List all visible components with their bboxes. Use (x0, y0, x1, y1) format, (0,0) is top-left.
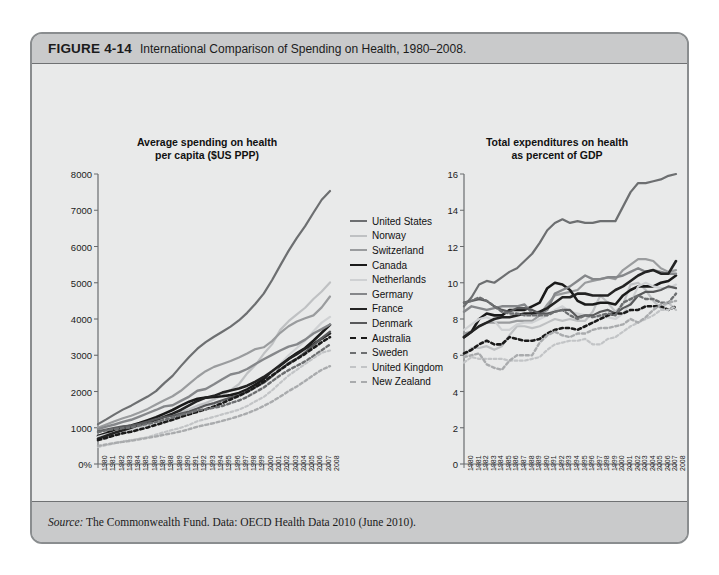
x-tick-label: 1998 (603, 455, 610, 471)
x-tick-label: 1997 (596, 455, 603, 471)
y-tick-label: 5000 (54, 277, 92, 288)
x-tick-label: 2008 (333, 455, 340, 471)
y-tick-label: 2000 (54, 386, 92, 397)
x-tick-label: 1980 (467, 455, 474, 471)
x-tick-label: 1995 (581, 455, 588, 471)
x-tick-label: 1980 (101, 455, 108, 471)
legend-swatch-icon (350, 264, 367, 266)
y-tick-label: 10 (420, 277, 458, 288)
source-label: Source: (48, 516, 83, 528)
y-tick-label: 12 (420, 241, 458, 252)
x-tick-label: 1982 (482, 455, 489, 471)
legend-label: Sweden (372, 347, 408, 358)
chart-svg (98, 174, 330, 464)
x-tick-label: 1985 (142, 455, 149, 471)
panel-spending-per-capita: Average spending on health per capita ($… (62, 64, 352, 505)
y-tick-label: 7000 (54, 205, 92, 216)
series-line-germany (98, 324, 330, 429)
legend-swatch-icon (350, 293, 367, 295)
right-plot-area: 0246810121416198019811982198319841985198… (464, 174, 676, 464)
x-tick-label: 1984 (134, 455, 141, 471)
x-tick-label: 2000 (267, 455, 274, 471)
x-tick-label: 1984 (497, 455, 504, 471)
x-tick-label: 1993 (209, 455, 216, 471)
y-tick-label: 16 (420, 169, 458, 180)
legend-swatch-icon (350, 337, 367, 339)
x-tick-label: 1991 (550, 455, 557, 471)
figure-header: FIGURE 4-14 International Comparison of … (32, 34, 687, 64)
legend-label: United States (372, 216, 432, 227)
x-tick-label: 1991 (192, 455, 199, 471)
x-tick-label: 1996 (588, 455, 595, 471)
legend-swatch-icon (350, 235, 367, 237)
x-tick-label: 1985 (505, 455, 512, 471)
x-tick-label: 2002 (634, 455, 641, 471)
y-tick-label: 8000 (54, 169, 92, 180)
series-line-australia (464, 306, 676, 353)
x-tick-label: 1986 (151, 455, 158, 471)
x-tick-label: 1988 (167, 455, 174, 471)
left-title-line2: per capita ($US PPP) (62, 149, 352, 162)
legend-swatch-icon (350, 322, 367, 324)
y-tick-label: 4 (420, 386, 458, 397)
right-title-line2: as percent of GDP (432, 149, 682, 162)
x-tick-label: 2003 (292, 455, 299, 471)
y-tick-label: 14 (420, 205, 458, 216)
x-tick-label: 2005 (308, 455, 315, 471)
x-tick-label: 1992 (558, 455, 565, 471)
x-tick-label: 1998 (250, 455, 257, 471)
legend-swatch-icon (350, 279, 367, 281)
source-text: The Commonwealth Fund. Data: OECD Health… (83, 516, 416, 528)
legend-swatch-icon (350, 381, 367, 383)
x-tick-label: 1982 (118, 455, 125, 471)
x-tick-label: 2007 (325, 455, 332, 471)
legend-label: Australia (372, 333, 411, 344)
figure-body: Average spending on health per capita ($… (32, 64, 687, 505)
x-tick-label: 1987 (159, 455, 166, 471)
x-tick-label: 1981 (475, 455, 482, 471)
legend-swatch-icon (350, 352, 367, 354)
x-tick-label: 2004 (300, 455, 307, 471)
x-tick-label: 2001 (626, 455, 633, 471)
y-tick-label: 1000 (54, 422, 92, 433)
x-tick-label: 1989 (535, 455, 542, 471)
x-tick-label: 1983 (490, 455, 497, 471)
x-tick-label: 1987 (520, 455, 527, 471)
y-tick-label: 4000 (54, 314, 92, 325)
figure-box: FIGURE 4-14 International Comparison of … (30, 32, 689, 544)
legend-label: Switzerland (372, 245, 424, 256)
x-tick-label: 1990 (543, 455, 550, 471)
right-title-line1: Total expenditures on health (432, 136, 682, 149)
figure-source: Source: The Commonwealth Fund. Data: OEC… (48, 516, 416, 528)
legend-swatch-icon (350, 366, 367, 368)
legend-swatch-icon (350, 249, 367, 251)
x-tick-label: 1999 (611, 455, 618, 471)
y-tick-label: 6 (420, 350, 458, 361)
legend-swatch-icon (350, 308, 367, 310)
figure-footer: Source: The Commonwealth Fund. Data: OEC… (32, 501, 687, 542)
x-tick-label: 1989 (176, 455, 183, 471)
y-tick-label: 2 (420, 422, 458, 433)
x-tick-label: 2000 (618, 455, 625, 471)
legend-label: Germany (372, 289, 413, 300)
x-tick-label: 2008 (679, 455, 686, 471)
x-tick-label: 2004 (649, 455, 656, 471)
y-tick-label: 6000 (54, 241, 92, 252)
x-tick-label: 2006 (664, 455, 671, 471)
series-line-denmark (98, 332, 330, 432)
x-tick-label: 1995 (225, 455, 232, 471)
x-tick-label: 2003 (641, 455, 648, 471)
x-tick-label: 1997 (242, 455, 249, 471)
left-title-line1: Average spending on health (62, 136, 352, 149)
x-tick-label: 1994 (573, 455, 580, 471)
series-line-united-states (98, 191, 330, 424)
x-tick-label: 1990 (184, 455, 191, 471)
x-tick-label: 1999 (258, 455, 265, 471)
x-tick-label: 2007 (671, 455, 678, 471)
left-plot-area: 0%10002000300040005000600070008000198019… (98, 174, 330, 464)
left-panel-title: Average spending on health per capita ($… (62, 136, 352, 162)
x-tick-label: 1986 (512, 455, 519, 471)
chart-svg (464, 174, 676, 464)
legend-label: Norway (372, 230, 406, 241)
x-tick-label: 1993 (565, 455, 572, 471)
